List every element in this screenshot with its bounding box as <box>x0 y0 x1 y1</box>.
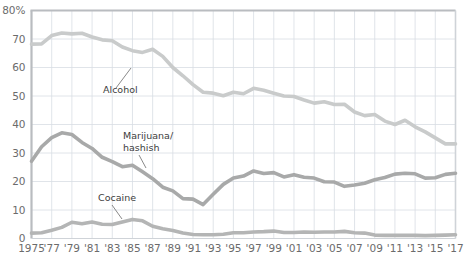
x-tick-label: '83 <box>104 242 120 254</box>
x-tick-label: '85 <box>124 242 140 254</box>
x-tick-label: 1975 <box>18 242 45 254</box>
x-tick-label: '87 <box>145 242 161 254</box>
x-tick-label: '13 <box>407 242 423 254</box>
x-tick-label: '91 <box>185 242 201 254</box>
y-tick-label: 60 <box>12 61 25 73</box>
x-tick-label: '09 <box>367 242 383 254</box>
x-tick-label: '03 <box>306 242 322 254</box>
x-tick-label: '81 <box>84 242 100 254</box>
x-tick-label: '79 <box>64 242 80 254</box>
series-annotation-label: Cocaine <box>98 192 136 203</box>
x-tick-label: '15 <box>427 242 443 254</box>
x-tick-label: '97 <box>245 242 261 254</box>
x-tick-label: '17 <box>447 242 463 254</box>
line-chart: 01020304050607080% 1975'77'79'81'83'85'8… <box>0 0 471 256</box>
series-annotation-label: hashish <box>123 142 159 153</box>
x-axis-tick-labels: 1975'77'79'81'83'85'87'89'91'93'95'97'99… <box>18 242 463 254</box>
y-tick-label: 20 <box>12 175 25 187</box>
x-tick-label: '77 <box>44 242 60 254</box>
x-tick-label: '11 <box>387 242 403 254</box>
x-tick-label: '07 <box>346 242 362 254</box>
x-tick-label: '93 <box>205 242 221 254</box>
chart-container: 01020304050607080% 1975'77'79'81'83'85'8… <box>0 0 471 256</box>
series-annotation-label: Alcohol <box>103 84 138 95</box>
x-tick-label: '89 <box>165 242 181 254</box>
x-tick-label: '05 <box>326 242 342 254</box>
y-tick-label: 50 <box>12 90 25 102</box>
x-tick-label: '95 <box>225 242 241 254</box>
x-tick-label: '01 <box>286 242 302 254</box>
y-tick-label: 30 <box>12 147 25 159</box>
x-tick-label: '99 <box>266 242 282 254</box>
series-annotation-label: Marijuana/ <box>123 130 174 141</box>
y-tick-label: 10 <box>12 204 25 216</box>
y-tick-label: 80% <box>2 4 25 16</box>
y-tick-label: 40 <box>12 118 25 130</box>
y-tick-label: 70 <box>12 33 25 45</box>
chart-background <box>0 0 471 256</box>
